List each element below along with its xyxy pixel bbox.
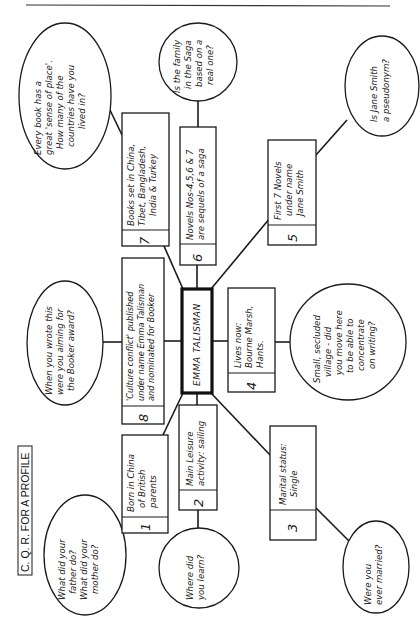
question-q2: Where did you learn? <box>159 528 239 608</box>
fact-box-3: 3 Marital status: Single <box>270 426 316 540</box>
svg-text:When you wrote this were: When you wrote this were you aiming for … <box>44 303 76 395</box>
fact-box-8: 8 'Culture conflict' published under nam… <box>122 258 164 424</box>
question-q5: Is Jane Smith a pseudonym? <box>345 36 419 136</box>
question-q1: What did your father do? What did your m… <box>44 495 126 615</box>
figure-title: C. Q. R. FOR A PROFILE <box>18 446 32 575</box>
svg-text:Where did you learn?: Where did you learn? <box>185 553 206 601</box>
svg-text:'Culture conflict' published: 'Culture conflict' published under name … <box>125 281 156 401</box>
svg-text:What did your father do?: What did your father do? What did your m… <box>57 537 100 600</box>
fact-number: 1 <box>138 523 153 531</box>
fact-box-2: 2 Main Leisure activity: sailing <box>179 405 217 510</box>
fact-number: 3 <box>285 524 300 532</box>
fact-number: 7 <box>137 236 152 245</box>
fact-box-1: 1 Born in China of British parents <box>122 435 168 533</box>
fact-number: 4 <box>244 382 259 390</box>
cqr-profile-diagram: Every book has a great 'sense of place'.… <box>0 0 420 628</box>
fact-box-4: 4 Lives now: Bourne Marsh, Hants. <box>228 288 275 392</box>
central-subject-box: EMMA TALISMAN <box>182 289 212 393</box>
question-q6: Is the family in the Saga based on a rea… <box>159 23 237 101</box>
fact-number: 5 <box>285 234 300 242</box>
fact-box-7: 7 Books set in China, Tibet, Bangladesh,… <box>122 113 169 246</box>
question-q4: Small, secluded village - did you move h… <box>290 284 406 400</box>
fact-number: 8 <box>136 414 151 422</box>
fact-box-5: 5 First 7 Novels under name Jane Smith <box>268 140 316 245</box>
question-q8: When you wrote this were you aiming for … <box>27 281 103 405</box>
question-q7: Every book has a great 'sense of place'.… <box>19 23 111 169</box>
fact-number: 6 <box>190 254 205 262</box>
svg-text:Novels Nos-4,5,6 & 7 are: Novels Nos-4,5,6 & 7 are sequels of a sa… <box>185 147 206 240</box>
svg-text:C. Q. R. FOR A PROFILE: C. Q. R. FOR A PROFILE <box>19 452 31 572</box>
fact-number: 2 <box>191 499 206 507</box>
question-bubble <box>27 281 103 405</box>
page-top-rule <box>26 5 390 6</box>
question-q3: Were you ever married? <box>343 521 409 613</box>
svg-text:Is the family in the Sag: Is the family in the Saga based on a rea… <box>172 37 215 93</box>
fact-box-6: 6 Novels Nos-4,5,6 & 7 are sequels of a … <box>180 127 216 265</box>
subject-name: EMMA TALISMAN <box>192 303 202 386</box>
svg-text:Main Leisure activity: s: Main Leisure activity: sailing <box>185 420 206 486</box>
